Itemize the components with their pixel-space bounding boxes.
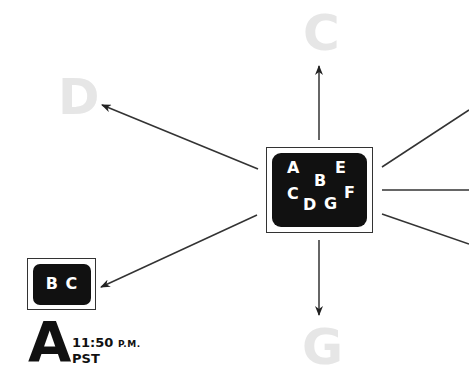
center-letter-b: B (314, 173, 326, 189)
bc-node-label: B C (33, 276, 91, 292)
center-node-screen: A B C D E F G (272, 153, 367, 227)
line-right-upper (382, 110, 469, 167)
center-letter-d: D (303, 197, 316, 213)
center-letter-c: C (287, 186, 299, 202)
arrow-to-bc-node (101, 215, 257, 287)
center-node: A B C D E F G (266, 147, 373, 233)
center-letter-g: G (324, 196, 337, 212)
zone-meridiem: P.M. (118, 339, 141, 349)
zone-timezone: PST (72, 352, 100, 365)
center-letter-f: F (344, 185, 355, 201)
zone-time-value: 11:50 (72, 335, 113, 350)
line-right-lower (382, 214, 469, 244)
bc-node: B C (27, 258, 96, 310)
zone-letter: A (28, 314, 71, 370)
center-letter-a: A (287, 160, 299, 176)
zone-time: 11:50 P.M. (72, 336, 141, 349)
arrow-to-d (102, 105, 258, 169)
bc-node-screen: B C (33, 264, 91, 305)
center-letter-e: E (335, 160, 346, 176)
